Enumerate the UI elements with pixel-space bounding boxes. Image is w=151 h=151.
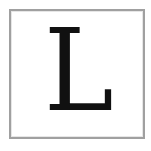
letter-glyph: L [44,14,114,128]
letter-tile: L [0,0,151,151]
